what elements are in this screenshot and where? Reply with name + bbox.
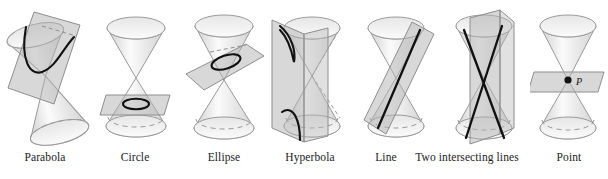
caption-two-intersecting-lines: Two intersecting lines bbox=[404, 150, 530, 164]
point-label-P: P bbox=[575, 76, 582, 87]
caption-parabola: Parabola bbox=[0, 150, 90, 164]
figure-two-intersecting-lines bbox=[440, 0, 530, 150]
figure-ellipse bbox=[180, 0, 268, 150]
cutting-plane-hyperbola bbox=[272, 20, 328, 142]
caption-point: Point bbox=[534, 150, 604, 164]
figure-hyperbola bbox=[266, 0, 354, 150]
caption-hyperbola: Hyperbola bbox=[266, 150, 354, 164]
caption-circle: Circle bbox=[92, 150, 178, 164]
apex-point-marker bbox=[564, 76, 571, 83]
conic-sections-figure: P Parabola Circle Ellipse Hyperbola Line… bbox=[0, 0, 608, 179]
figure-line bbox=[352, 0, 440, 150]
figure-parabola bbox=[0, 0, 92, 150]
cutting-plane-two-lines bbox=[470, 10, 514, 144]
cone-body-circle bbox=[106, 17, 166, 137]
figure-point: P bbox=[530, 0, 608, 150]
cutting-plane-parabola bbox=[8, 12, 80, 104]
caption-ellipse: Ellipse bbox=[180, 150, 268, 164]
figure-circle bbox=[92, 0, 180, 150]
